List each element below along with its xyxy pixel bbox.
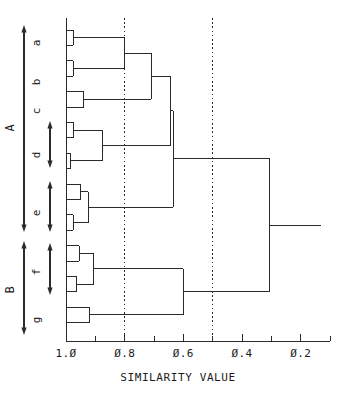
cluster-label-c: c (30, 108, 43, 115)
group-bracket-B-label: B (3, 286, 17, 293)
x-tick-label: Ø.8 (114, 347, 135, 360)
x-tick-label: Ø.6 (173, 347, 194, 360)
x-tick-label: Ø.2 (290, 347, 311, 360)
dendrogram-figure: 1.ØØ.8Ø.6Ø.4Ø.2 ABabcdefg SIMILARITY VAL… (0, 0, 353, 397)
cluster-label-a: a (30, 40, 43, 47)
x-tick-label: 1.Ø (55, 347, 76, 360)
cluster-label-f: f (30, 269, 43, 276)
cluster-label-b: b (30, 79, 43, 86)
plot-background (0, 0, 353, 397)
cluster-label-g: g (30, 317, 43, 324)
x-tick-label: Ø.4 (231, 347, 252, 360)
x-axis-title: SIMILARITY VALUE (120, 371, 236, 384)
dendrogram-plot: 1.ØØ.8Ø.6Ø.4Ø.2 ABabcdefg SIMILARITY VAL… (0, 0, 353, 397)
group-bracket-A-label: A (3, 124, 17, 132)
cluster-label-e: e (30, 210, 43, 217)
cluster-label-d: d (30, 152, 43, 159)
